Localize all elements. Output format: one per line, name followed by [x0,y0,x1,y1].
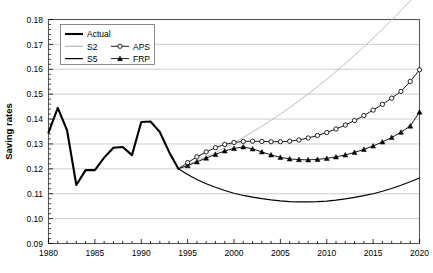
data-point-marker [352,118,356,122]
data-point-marker [118,44,122,48]
x-tick-label: 1990 [132,248,151,258]
data-point-marker [269,140,273,144]
data-point-marker [241,139,245,143]
y-tick-label: 0.18 [26,15,43,25]
x-tick-label: 2000 [225,248,244,258]
x-tick-label: 2015 [364,248,383,258]
data-point-marker [408,124,413,129]
data-point-marker [288,139,292,143]
series-actual [49,108,179,185]
y-axis-tick-labels: 0.090.100.110.120.130.140.150.160.170.18 [26,15,43,249]
data-point-marker [380,139,385,144]
series-line [49,108,179,185]
data-point-marker [334,127,338,131]
data-point-marker [204,150,208,154]
y-axis-title: Saving rates [3,103,14,160]
data-point-marker [232,140,236,144]
data-point-marker [223,142,227,146]
data-point-marker [260,139,264,143]
data-point-marker [417,110,422,115]
legend-label: S2 [87,42,98,52]
data-point-marker [185,160,189,164]
x-tick-label: 2005 [271,248,290,258]
chart-canvas: 198019851990199520002005201020152020 0.0… [0,0,433,273]
data-point-marker [408,79,412,83]
x-tick-label: 2010 [317,248,336,258]
data-point-marker [325,130,329,134]
x-tick-label: 1980 [39,248,58,258]
x-tick-label: 2020 [410,248,429,258]
series-s5 [178,169,419,202]
data-point-marker [389,135,394,140]
y-tick-label: 0.14 [26,114,43,124]
legend-label: FRP [133,54,150,64]
x-axis-ticks [49,239,420,244]
data-point-marker [343,123,347,127]
y-tick-label: 0.11 [27,189,43,199]
saving-rates-chart: 198019851990199520002005201020152020 0.0… [0,0,433,273]
data-point-marker [399,89,403,93]
data-point-marker [390,96,394,100]
series-line [178,169,419,202]
y-tick-label: 0.17 [26,40,43,50]
data-point-marker [250,139,254,143]
legend-label: S5 [87,54,98,64]
legend-label: Actual [87,29,111,39]
x-axis-tick-labels: 198019851990199520002005201020152020 [39,248,429,258]
legend-label: APS [133,42,150,52]
data-point-marker [315,133,319,137]
data-point-marker [380,102,384,106]
x-tick-label: 1995 [178,248,197,258]
data-point-marker [398,130,403,135]
data-point-marker [417,68,421,72]
y-tick-label: 0.09 [26,239,43,249]
y-tick-label: 0.10 [26,214,43,224]
chart-legend: ActualS2APSS5FRP [61,25,155,65]
data-point-marker [278,140,282,144]
y-tick-label: 0.16 [26,64,43,74]
y-tick-label: 0.13 [26,139,43,149]
data-point-marker [371,108,375,112]
data-point-marker [241,144,246,149]
data-point-marker [297,138,301,142]
data-point-marker [306,136,310,140]
y-tick-label: 0.12 [26,164,43,174]
y-tick-label: 0.15 [26,89,43,99]
x-tick-label: 1985 [85,248,104,258]
data-point-marker [213,146,217,150]
data-point-marker [362,113,366,117]
y-axis-title-text: Saving rates [3,103,14,160]
data-point-marker [195,155,199,159]
